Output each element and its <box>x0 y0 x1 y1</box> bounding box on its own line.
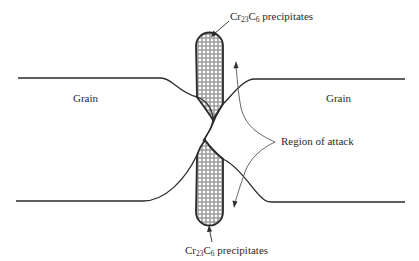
grain-left-label: Grain <box>73 93 98 104</box>
diagram-canvas <box>0 0 419 261</box>
corrosion-diagram: Cr23C6 precipitates Cr23C6 precipitates … <box>0 0 419 261</box>
formula-part: Cr <box>230 10 241 22</box>
region-of-attack-label: Region of attack <box>281 136 354 147</box>
bottom-precipitate-label: Cr23C6 precipitates <box>185 245 268 258</box>
formula-subscript: 23 <box>196 249 204 258</box>
grain-right-label: Grain <box>326 93 351 104</box>
label-text: precipitates <box>260 10 313 22</box>
region-attack-arrow-up <box>236 66 275 142</box>
bottom-precipitate-arrow <box>210 230 213 242</box>
grain-boundary-top-right <box>223 79 405 104</box>
top-precipitate-label: Cr23C6 precipitates <box>230 11 313 24</box>
grain-boundary-top-left <box>18 78 197 97</box>
formula-subscript: 23 <box>241 15 249 24</box>
formula-part: C <box>249 10 256 22</box>
region-attack-arrowhead-down <box>233 201 238 209</box>
grain-boundary-bottom-right <box>223 159 405 202</box>
region-attack-arrowhead-up <box>234 61 239 69</box>
label-text: precipitates <box>215 244 268 256</box>
grain-boundary-bottom-left <box>16 155 197 201</box>
bottom-precipitate <box>196 140 223 226</box>
formula-part: C <box>204 244 211 256</box>
top-precipitate-arrow <box>214 21 229 34</box>
region-attack-arrow-down <box>235 142 275 203</box>
formula-part: Cr <box>185 244 196 256</box>
